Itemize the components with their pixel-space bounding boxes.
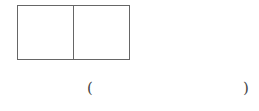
divided-rectangle-figure — [17, 5, 130, 60]
close-parenthesis: ) — [243, 78, 249, 98]
open-parenthesis: ( — [87, 78, 93, 98]
answer-blank[interactable] — [100, 78, 240, 98]
grid-cell-left — [18, 6, 73, 59]
grid-cell-right — [73, 6, 129, 59]
